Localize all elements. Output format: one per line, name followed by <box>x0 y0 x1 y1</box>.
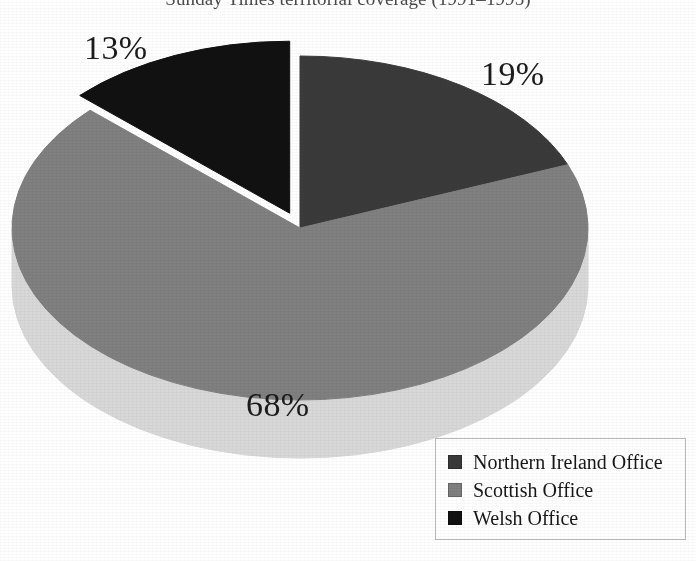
legend-item-scottish[interactable]: Scottish Office <box>448 476 685 504</box>
legend-label: Northern Ireland Office <box>473 452 663 472</box>
legend-item-welsh[interactable]: Welsh Office <box>448 504 685 532</box>
legend-swatch-icon <box>448 511 462 525</box>
legend-label: Welsh Office <box>473 508 578 528</box>
chart-legend: Northern Ireland Office Scottish Office … <box>435 438 686 540</box>
legend-label: Scottish Office <box>473 480 593 500</box>
legend-swatch-icon <box>448 455 462 469</box>
pie-chart <box>0 0 696 470</box>
legend-swatch-icon <box>448 483 462 497</box>
slice-label-welsh: 13% <box>84 29 148 67</box>
pie-chart-svg <box>0 0 696 470</box>
slice-label-scottish: 68% <box>246 386 310 424</box>
chart-page: Sunday Times territorial coverage (1991–… <box>0 0 696 561</box>
slice-label-northern-ireland: 19% <box>481 55 545 93</box>
legend-item-northern-ireland[interactable]: Northern Ireland Office <box>448 448 685 476</box>
